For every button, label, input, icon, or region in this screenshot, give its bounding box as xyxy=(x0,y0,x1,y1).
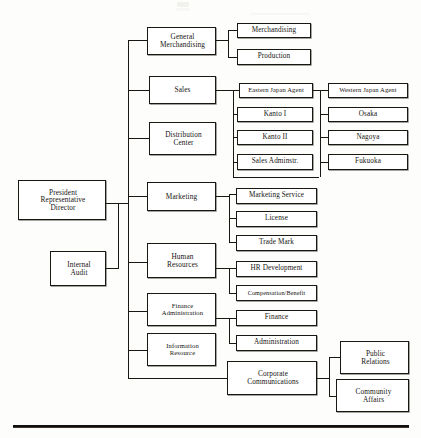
node-community-affairs[interactable]: Community Affairs xyxy=(336,379,409,412)
node-label: HR Development xyxy=(237,265,316,272)
connector xyxy=(128,90,150,91)
node-label: Administration xyxy=(237,339,316,346)
node-label: License xyxy=(237,215,316,222)
node-label: Affairs xyxy=(338,396,409,404)
connector xyxy=(320,162,328,163)
node-kanto-2[interactable]: Kanto II xyxy=(237,130,313,145)
node-label: Marketing xyxy=(148,193,215,201)
scan-artifact xyxy=(250,13,310,15)
node-label: Fukuoka xyxy=(329,158,407,165)
connector xyxy=(216,90,233,91)
node-distribution-center[interactable]: Distribution Center xyxy=(149,122,216,155)
node-label: Center xyxy=(151,139,216,147)
node-information-resource[interactable]: Information Resource xyxy=(147,333,216,366)
connector xyxy=(216,268,229,269)
node-label: Kanto II xyxy=(238,134,312,141)
connector xyxy=(320,90,328,91)
node-label: Administration xyxy=(149,310,216,317)
connector xyxy=(317,378,329,379)
node-merchandising[interactable]: Merchandising xyxy=(237,23,311,38)
scan-artifact xyxy=(177,2,189,7)
page-bottom-rule xyxy=(13,425,409,428)
node-license[interactable]: License xyxy=(236,211,317,227)
connector xyxy=(216,196,229,197)
scan-artifact xyxy=(176,8,190,11)
node-osaka[interactable]: Osaka xyxy=(328,107,408,122)
connector xyxy=(228,57,237,58)
node-internal-audit[interactable]: Internal Audit xyxy=(50,251,106,286)
node-fukuoka[interactable]: Fukuoka xyxy=(328,154,408,170)
node-trade-mark[interactable]: Trade Mark xyxy=(236,235,317,251)
connector xyxy=(118,203,119,269)
node-marketing[interactable]: Marketing xyxy=(147,182,216,211)
connector xyxy=(128,138,150,139)
node-label: Kanto I xyxy=(238,111,312,118)
connector xyxy=(128,378,227,379)
sales-spine xyxy=(233,90,234,177)
node-label: Merchandising xyxy=(238,27,310,34)
node-marketing-service[interactable]: Marketing Service xyxy=(236,188,317,204)
node-label: Production xyxy=(238,53,310,60)
node-label: Resources xyxy=(149,261,216,269)
connector xyxy=(229,268,230,293)
node-sales[interactable]: Sales xyxy=(149,76,216,104)
node-label: Osaka xyxy=(329,111,407,118)
node-label: Nagoya xyxy=(329,134,407,141)
node-western-japan-agent[interactable]: Western Japan Agent xyxy=(328,83,408,98)
node-corporate-communications[interactable]: Corporate Communications xyxy=(227,361,317,395)
connector xyxy=(216,40,228,41)
node-sales-adminstr[interactable]: Sales Adminstr. xyxy=(237,154,313,170)
node-label: Merchandising xyxy=(149,41,216,49)
node-label: Eastern Japan Agent xyxy=(240,87,312,94)
connector xyxy=(228,30,229,57)
connector xyxy=(106,203,128,204)
node-label: Trade Mark xyxy=(237,239,316,246)
connector xyxy=(329,357,340,358)
node-finance[interactable]: Finance xyxy=(236,310,317,326)
node-administration[interactable]: Administration xyxy=(236,335,317,351)
node-label: Western Japan Agent xyxy=(329,87,407,94)
connector xyxy=(329,357,330,396)
node-label: Director xyxy=(20,204,106,212)
node-human-resources[interactable]: Human Resources xyxy=(147,243,216,278)
node-label: Sales xyxy=(150,86,215,94)
node-hr-development[interactable]: HR Development xyxy=(236,261,317,277)
node-president[interactable]: President Representative Director xyxy=(18,180,106,220)
node-label: Finance xyxy=(237,314,316,321)
node-eastern-japan-agent[interactable]: Eastern Japan Agent xyxy=(239,83,313,98)
node-label: Marketing Service xyxy=(237,192,316,199)
node-kanto-1[interactable]: Kanto I xyxy=(237,107,313,122)
node-label: Communications xyxy=(229,378,317,386)
connector xyxy=(320,137,328,138)
node-compensation-benefit[interactable]: Compensation/Benefit xyxy=(236,285,317,301)
node-label: Resource xyxy=(149,350,216,357)
connector xyxy=(228,30,237,31)
node-label: Relations xyxy=(342,358,409,366)
connector xyxy=(229,318,230,343)
node-public-relations[interactable]: Public Relations xyxy=(340,341,409,374)
node-label: Sales Adminstr. xyxy=(238,158,312,165)
node-production[interactable]: Production xyxy=(237,49,311,65)
west-spine xyxy=(320,90,321,177)
node-label: Compensation/Benefit xyxy=(237,290,316,296)
node-nagoya[interactable]: Nagoya xyxy=(328,130,408,145)
connector xyxy=(320,114,328,115)
connector xyxy=(233,177,319,178)
connector xyxy=(329,396,336,397)
connector xyxy=(216,318,229,319)
node-finance-administration[interactable]: Finance Administration xyxy=(147,293,216,326)
node-general-merchandising[interactable]: General Merchandising xyxy=(147,27,216,55)
org-chart-page: President Representative Director Intern… xyxy=(0,0,421,438)
node-label: Audit xyxy=(52,269,106,277)
